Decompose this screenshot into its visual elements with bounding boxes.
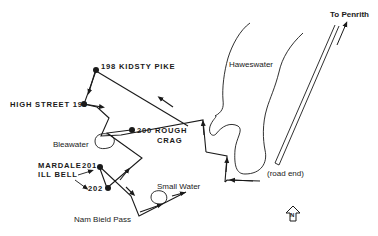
- road-end-label: (road end): [267, 170, 304, 178]
- high-street-label: HIGH STREET 199: [10, 101, 88, 109]
- haweswater-west-shore: [215, 23, 250, 116]
- point-202-label: 202: [88, 185, 103, 193]
- summit-dot-icon: [93, 67, 99, 73]
- road-to-penrith: [275, 25, 339, 165]
- haweswater-label: Haweswater: [229, 61, 273, 69]
- mardale-label-1: MARDALE: [38, 162, 82, 170]
- bleawater-label: Bleawater: [53, 141, 89, 149]
- point-201-label: 201: [82, 162, 97, 170]
- north-label: N: [290, 212, 294, 218]
- summit-dot-icon: [105, 185, 111, 191]
- label-pointer-201: [78, 171, 91, 175]
- route-map: [0, 0, 378, 236]
- to-penrith-label: To Penrith: [330, 11, 369, 19]
- rough-crag-label-2: CRAG: [157, 137, 183, 145]
- small-water-label: Small Water: [157, 183, 200, 191]
- kidsty-pike-label: 198 KIDSTY PIKE: [101, 63, 175, 71]
- label-pointer-202: [75, 180, 86, 188]
- small-water-tarn: [151, 191, 167, 204]
- summit-dot-icon: [97, 164, 103, 170]
- summit-dot-icon: [129, 127, 135, 133]
- rough-crag-label-1: 200 ROUGH: [137, 127, 187, 135]
- mardale-label-2: ILL BELL: [38, 171, 78, 179]
- nam-bield-pass-label: Nam Bield Pass: [74, 216, 131, 224]
